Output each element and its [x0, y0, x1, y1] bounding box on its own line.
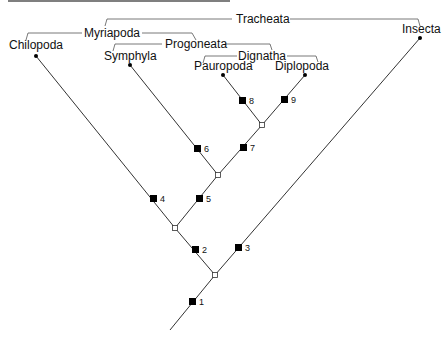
marker-label-6: 6 [204, 144, 209, 154]
taxon-pauropoda: Pauropoda [194, 59, 253, 73]
marker-2 [192, 246, 199, 253]
label-tracheata: Tracheata [236, 12, 290, 26]
marker-8 [239, 97, 246, 104]
marker-4 [150, 195, 157, 202]
marker-label-5: 5 [206, 194, 211, 204]
marker-5 [196, 195, 203, 202]
node-tracheata [213, 273, 218, 278]
node-progoneata [216, 173, 221, 178]
marker-1 [189, 298, 196, 305]
marker-label-3: 3 [245, 243, 250, 253]
taxon-diplopoda: Diplopoda [275, 59, 329, 73]
taxon-insecta: Insecta [402, 22, 441, 36]
marker-label-9: 9 [291, 95, 296, 105]
marker-7 [240, 144, 247, 151]
marker-3 [235, 244, 242, 251]
marker-9 [281, 96, 288, 103]
leaf-dot-symphyla [128, 63, 132, 67]
cladogram: Tracheata Myriapoda Progoneata Dignatha … [0, 0, 448, 340]
leaf-dot-diplopoda [303, 73, 307, 77]
label-progoneata: Progoneata [165, 37, 227, 51]
taxon-chilopoda: Chilopoda [9, 38, 63, 52]
tree-edges [36, 38, 420, 330]
leaf-dot-pauropoda [221, 73, 225, 77]
marker-label-1: 1 [199, 297, 204, 307]
marker-6 [194, 145, 201, 152]
marker-label-4: 4 [160, 194, 165, 204]
bracket-tracheata: Tracheata [105, 12, 420, 26]
label-myriapoda: Myriapoda [84, 26, 140, 40]
character-markers: 1 2 3 4 5 6 7 8 9 [150, 95, 296, 307]
marker-label-8: 8 [249, 96, 254, 106]
taxon-symphyla: Symphyla [104, 49, 157, 63]
leaf-dot-chilopoda [34, 54, 38, 58]
marker-label-7: 7 [250, 143, 255, 153]
node-dignatha [260, 123, 265, 128]
marker-label-2: 2 [202, 245, 207, 255]
leaf-dot-insecta [418, 36, 422, 40]
node-myriapoda [173, 226, 178, 231]
